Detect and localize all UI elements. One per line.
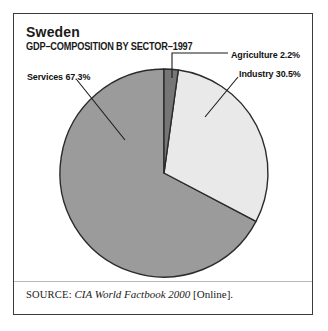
slice-label-agriculture: Agriculture 2.2% (231, 49, 300, 60)
source-line: SOURCE: CIA World Factbook 2000 [Online]… (26, 288, 233, 300)
source-divider (14, 281, 312, 282)
slice-label-industry: Industry 30.5% (239, 68, 301, 79)
source-prefix: SOURCE: (26, 289, 72, 300)
source-suffix: [Online]. (193, 288, 233, 300)
slice-label-services: Services 67.3% (27, 71, 90, 82)
figure-root: Sweden GDP–COMPOSITION BY SECTOR–1997 Ag… (0, 0, 328, 331)
source-work: CIA World Factbook 2000 (75, 288, 191, 300)
